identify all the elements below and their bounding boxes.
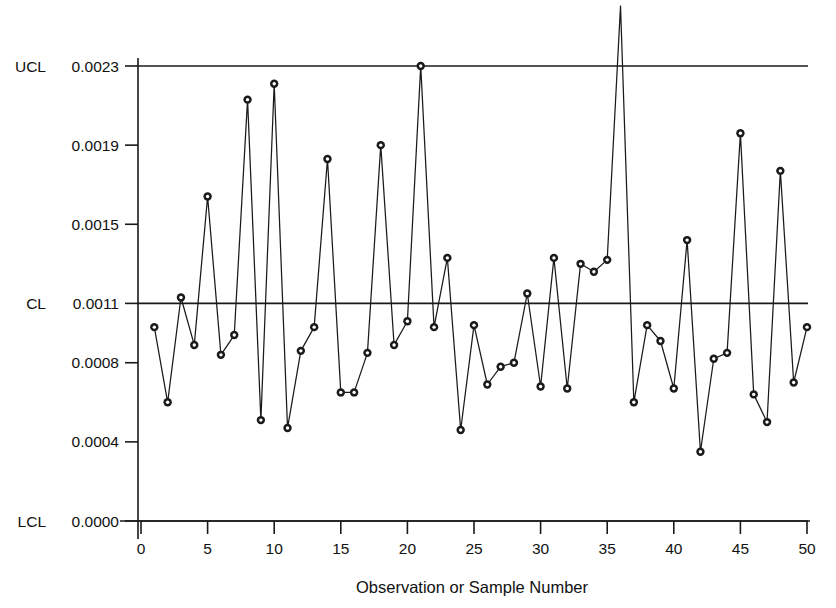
series-polyline [154, 6, 807, 452]
data-point-marker [483, 380, 491, 388]
data-point-marker [456, 426, 464, 434]
data-point-marker [257, 416, 265, 424]
data-point-marker [430, 323, 438, 331]
data-point-marker [670, 384, 678, 392]
data-point-marker [576, 260, 584, 268]
data-point-marker [310, 323, 318, 331]
data-point-marker [270, 80, 278, 88]
data-point-marker [523, 289, 531, 297]
data-point-marker [417, 62, 425, 70]
y-tick-label-6: 0.0000 [72, 513, 120, 530]
y-tick-label-0: 0.0023 [72, 58, 119, 75]
data-point-marker [803, 323, 811, 331]
x-axis-ticks [141, 521, 807, 534]
x-tick-label-7: 35 [599, 540, 616, 557]
x-tick-label-0: 0 [137, 540, 146, 557]
data-point-markers [150, 62, 811, 456]
control-chart: 0.0023UCL0.00190.00150.00110.00080.00040… [0, 0, 836, 608]
data-point-marker [630, 398, 638, 406]
data-point-marker [403, 317, 411, 325]
x-tick-label-9: 45 [732, 540, 749, 557]
data-point-marker [390, 341, 398, 349]
data-point-marker [190, 341, 198, 349]
data-point-marker [283, 424, 291, 432]
data-point-marker [297, 347, 305, 355]
data-point-marker [643, 321, 651, 329]
data-point-marker [736, 129, 744, 137]
y-tick-label-2: 0.0015 [72, 216, 119, 233]
data-point-marker [243, 95, 251, 103]
data-point-marker [683, 236, 691, 244]
data-series-line [154, 6, 807, 452]
control-limit-lines [138, 66, 808, 521]
x-axis-title: Observation or Sample Number [356, 578, 589, 596]
data-point-marker [496, 363, 504, 371]
data-point-marker [550, 254, 558, 262]
data-point-marker [323, 155, 331, 163]
x-tick-label-6: 30 [532, 540, 550, 557]
data-point-marker [723, 349, 731, 357]
data-point-marker [443, 254, 451, 262]
data-point-marker [696, 448, 704, 456]
data-point-marker [350, 388, 358, 396]
data-point-marker [656, 337, 664, 345]
data-point-marker [763, 418, 771, 426]
x-tick-label-2: 10 [266, 540, 284, 557]
x-tick-label-4: 20 [399, 540, 417, 557]
x-tick-label-8: 40 [665, 540, 683, 557]
data-point-marker [163, 398, 171, 406]
x-tick-label-1: 5 [203, 540, 212, 557]
data-point-marker [710, 355, 718, 363]
data-point-marker [363, 349, 371, 357]
data-point-marker [337, 388, 345, 396]
data-point-marker [776, 167, 784, 175]
y-axis-ticks [125, 66, 138, 521]
y-tick-label-5: 0.0004 [72, 433, 120, 450]
data-point-marker [603, 256, 611, 264]
data-point-marker [470, 321, 478, 329]
data-point-marker [590, 268, 598, 276]
x-tick-label-10: 50 [798, 540, 816, 557]
data-point-marker [789, 378, 797, 386]
data-point-marker [563, 384, 571, 392]
data-point-marker [203, 192, 211, 200]
chart-axes [120, 58, 810, 539]
y-tick-label-3: 0.0011 [73, 295, 119, 312]
data-point-marker [177, 293, 185, 301]
data-point-marker [150, 323, 158, 331]
data-point-marker [217, 351, 225, 359]
lcl-label: LCL [18, 513, 47, 530]
data-point-marker [750, 390, 758, 398]
x-tick-label-5: 25 [465, 540, 482, 557]
data-point-marker [377, 141, 385, 149]
data-point-marker [510, 359, 518, 367]
data-point-marker [230, 331, 238, 339]
control-chart-canvas: 0.0023UCL0.00190.00150.00110.00080.00040… [0, 0, 836, 608]
cl-label: CL [26, 295, 46, 312]
y-axis-tick-labels: 0.0023UCL0.00190.00150.00110.00080.00040… [15, 58, 119, 530]
ucl-label: UCL [15, 58, 46, 75]
data-point-marker [536, 382, 544, 390]
y-tick-label-4: 0.0008 [72, 354, 119, 371]
y-tick-label-1: 0.0019 [72, 137, 119, 154]
x-axis-tick-labels: 05101520253035404550 [137, 540, 816, 557]
x-tick-label-3: 15 [332, 540, 349, 557]
